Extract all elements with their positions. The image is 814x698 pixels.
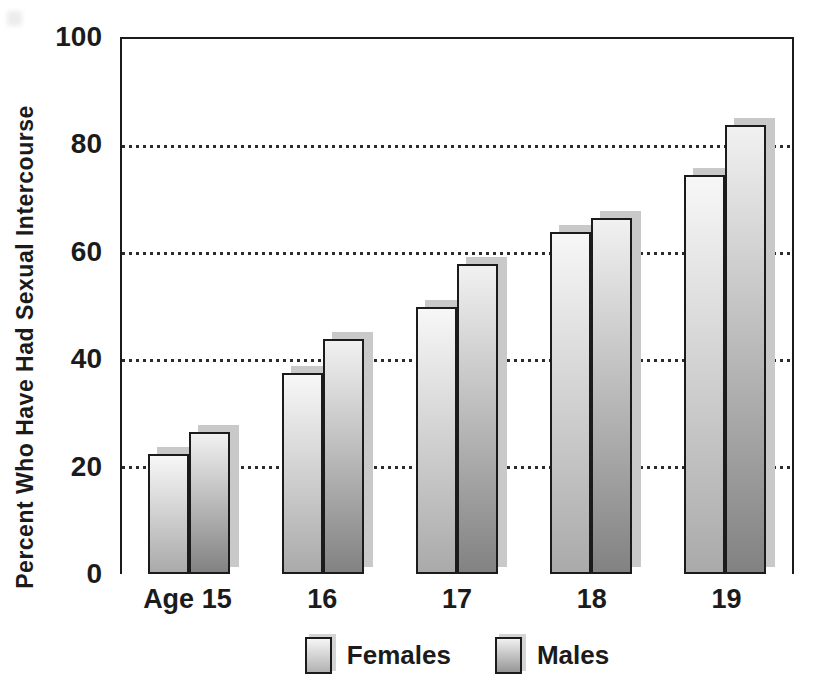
x-label-17: 17 <box>390 584 525 614</box>
legend-item-males: Males <box>495 637 609 674</box>
x-label-18: 18 <box>524 584 659 614</box>
bars-layer <box>122 39 792 574</box>
bar-females-19 <box>684 175 725 574</box>
bar-males-18 <box>591 218 632 574</box>
y-axis: 100806040200 <box>0 37 102 574</box>
y-tick-label-60: 60 <box>0 238 102 266</box>
bar-females-18 <box>550 232 591 574</box>
bar-group-19 <box>658 39 792 574</box>
y-tick-label-40: 40 <box>0 345 102 373</box>
bar-group-age-15 <box>122 39 256 574</box>
bar-males-19 <box>725 125 766 574</box>
x-axis: Age 1516171819 <box>120 584 794 614</box>
bar-males-16 <box>323 339 364 574</box>
legend: FemalesMales <box>120 630 794 680</box>
x-label-age-15: Age 15 <box>120 584 255 614</box>
bar-males-17 <box>457 264 498 574</box>
bar-females-16 <box>282 373 323 574</box>
bar-females-age-15 <box>148 454 189 574</box>
y-tick-label-20: 20 <box>0 453 102 481</box>
legend-label-males: Males <box>537 640 609 670</box>
bar-group-16 <box>256 39 390 574</box>
bar-females-17 <box>416 307 457 575</box>
bar-group-18 <box>524 39 658 574</box>
plot-area <box>120 37 794 574</box>
y-tick-label-0: 0 <box>0 560 102 588</box>
bar-group-17 <box>390 39 524 574</box>
legend-swatch-females <box>305 637 332 674</box>
y-tick-label-100: 100 <box>0 23 102 51</box>
legend-item-females: Females <box>305 637 451 674</box>
x-label-19: 19 <box>659 584 794 614</box>
bar-males-age-15 <box>189 432 230 574</box>
legend-swatch-males <box>495 637 522 674</box>
y-tick-label-80: 80 <box>0 130 102 158</box>
x-label-16: 16 <box>255 584 390 614</box>
legend-label-females: Females <box>347 640 451 670</box>
figure: Percent Who Have Had Sexual Intercourse … <box>0 0 814 698</box>
